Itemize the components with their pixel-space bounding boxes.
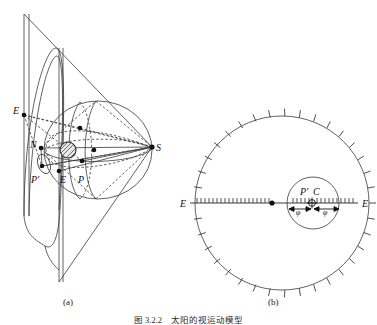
label-phi-right: φ — [323, 208, 328, 217]
panel-b-diagram: P' C φ φ E E — [0, 0, 377, 325]
panel-b-caption: (b) — [268, 297, 279, 307]
label-E-left-b: E — [179, 198, 186, 209]
pt-center-outer — [269, 200, 274, 205]
panel-b-points — [269, 200, 274, 205]
label-Pprime-b: P' — [299, 186, 309, 197]
phi-left-arrowhead-left — [289, 207, 294, 212]
phi-left-arrowhead-right — [306, 207, 311, 212]
label-phi-left: φ — [296, 208, 301, 217]
figure-caption: 图 3.2.2 太阳的视运动模型 — [0, 313, 377, 325]
panel-b-group: P' C φ φ E E — [179, 109, 376, 298]
label-E-right: E — [361, 198, 368, 209]
figure-root: E N S P' E P — [0, 0, 377, 325]
phi-right-arrowhead-left — [314, 207, 319, 212]
panel-a-caption: (a) — [63, 297, 73, 307]
label-C-b: C — [313, 186, 320, 197]
crosshair-marker — [307, 198, 318, 209]
axis-tick-comb — [197, 198, 353, 203]
